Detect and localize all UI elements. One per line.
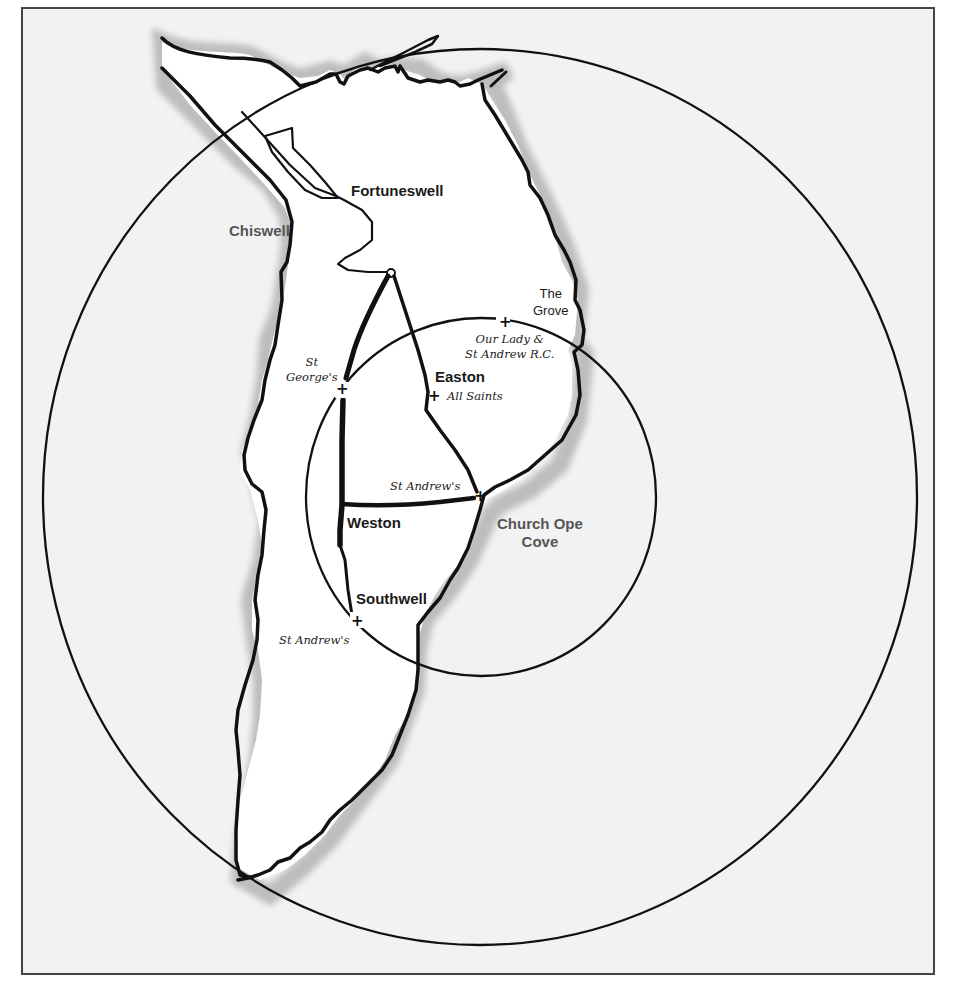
church-label-st-andrews-east: St Andrew's: [390, 479, 460, 493]
place-label-southwell: Southwell: [356, 590, 427, 607]
church-cross-st-andrews-east: +: [474, 489, 487, 504]
church-label-our-lady-st-andrew: Our Lady & St Andrew R.C.: [465, 332, 554, 362]
church-ope-line1: Church Ope: [497, 515, 583, 533]
place-label-church-ope-cove: Church Ope Cove: [497, 515, 583, 551]
place-label-the-grove: The Grove: [533, 285, 568, 319]
place-label-easton: Easton: [435, 368, 485, 385]
church-cross-st-andrews-south: +: [351, 614, 364, 629]
church-label-st-andrews-south: St Andrew's: [279, 633, 349, 647]
church-cross-st-georges: +: [336, 382, 349, 397]
st-georges-line1: St: [286, 355, 338, 370]
place-label-chiswell: Chiswell: [229, 222, 290, 239]
the-grove-line1: The: [533, 285, 568, 302]
st-georges-line2: George's: [286, 370, 338, 385]
place-label-fortuneswell: Fortuneswell: [351, 182, 444, 199]
page-bottom-margin: [0, 980, 954, 989]
place-label-weston: Weston: [347, 514, 401, 531]
portland-island-land: [162, 42, 578, 880]
church-label-all-saints: All Saints: [447, 389, 503, 403]
our-lady-line1: Our Lady &: [465, 332, 554, 347]
church-ope-line2: Cove: [497, 533, 583, 551]
our-lady-line2: St Andrew R.C.: [465, 347, 554, 362]
church-cross-our-lady: +: [499, 315, 512, 330]
church-label-st-georges: St George's: [286, 355, 338, 385]
the-grove-line2: Grove: [533, 302, 568, 319]
church-cross-all-saints: +: [428, 389, 441, 404]
